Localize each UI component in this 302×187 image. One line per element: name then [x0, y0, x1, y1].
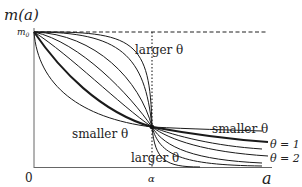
label-theta-2: θ = 2	[270, 152, 300, 165]
m-of-a-figure: m(a) m0 0 α a larger θ smaller θ smaller…	[0, 0, 302, 187]
label-smaller-theta-right: smaller θ	[212, 122, 268, 136]
origin-label: 0	[25, 171, 33, 185]
x-axis-label: a	[262, 169, 272, 187]
label-larger-theta-bottom: larger θ	[131, 151, 179, 165]
y-axis-label: m(a)	[4, 6, 39, 24]
label-theta-1: θ = 1	[270, 138, 300, 151]
label-smaller-theta-left: smaller θ	[72, 127, 128, 141]
m0-tick-label: m0	[17, 27, 30, 38]
label-larger-theta-top: larger θ	[135, 43, 183, 57]
common-point	[150, 125, 155, 130]
alpha-tick-label: α	[148, 173, 155, 184]
